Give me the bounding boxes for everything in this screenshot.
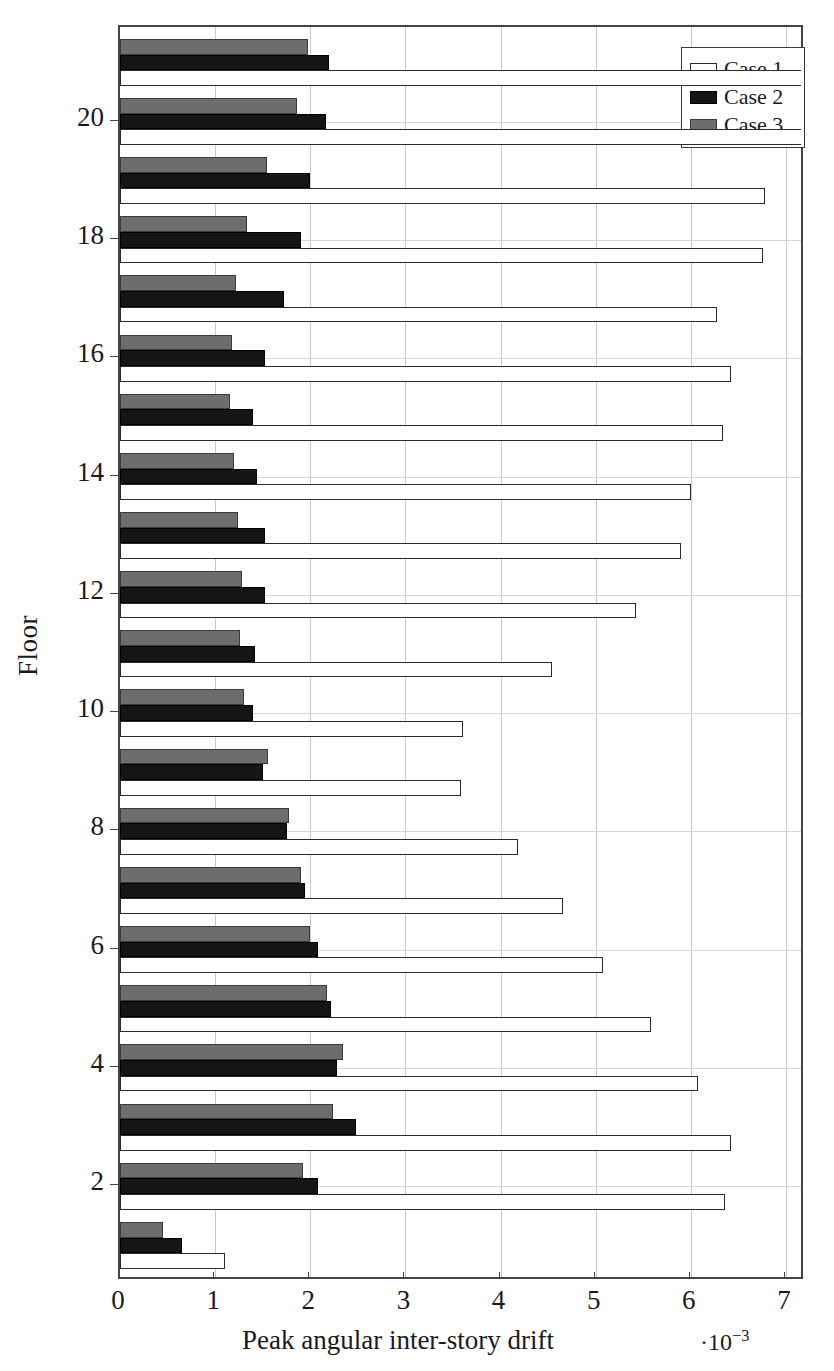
x-tick	[118, 1272, 119, 1279]
bar-case-1-floor-8	[120, 839, 518, 855]
y-tick	[110, 593, 118, 594]
bar-case-3-floor-18	[120, 216, 247, 232]
x-tick	[308, 1272, 309, 1279]
x-tick-label: 3	[373, 1285, 433, 1316]
x-tick-label: 7	[754, 1285, 814, 1316]
plot-area	[118, 25, 803, 1279]
bar-case-3-floor-5	[120, 985, 327, 1001]
y-tick-label: 8	[42, 811, 104, 842]
bar-case-1-floor-13	[120, 543, 681, 559]
bar-case-2-floor-6	[120, 942, 318, 958]
bar-case-2-floor-12	[120, 587, 265, 603]
bar-case-2-floor-4	[120, 1060, 337, 1076]
bar-case-1-floor-11	[120, 662, 552, 678]
bar-case-1-floor-5	[120, 1017, 651, 1033]
bar-case-3-floor-11	[120, 630, 240, 646]
legend-label: Case 2	[724, 84, 783, 110]
x-tick	[689, 1272, 690, 1279]
bar-case-2-floor-2	[120, 1178, 318, 1194]
x-tick	[403, 1272, 404, 1279]
bar-case-3-floor-20	[120, 98, 297, 114]
x-tick-label: 4	[469, 1285, 529, 1316]
bar-case-1-floor-15	[120, 425, 723, 441]
bar-case-2-floor-11	[120, 646, 255, 662]
bar-case-1-floor-7	[120, 898, 563, 914]
y-tick-label: 2	[42, 1166, 104, 1197]
y-tick-label: 20	[42, 102, 104, 133]
bar-case-2-floor-9	[120, 764, 263, 780]
bar-case-1-floor-3	[120, 1135, 731, 1151]
y-tick	[110, 120, 118, 121]
y-tick	[110, 1066, 118, 1067]
bar-case-2-floor-20	[120, 114, 326, 130]
bar-case-2-floor-17	[120, 291, 284, 307]
bar-case-2-floor-8	[120, 823, 287, 839]
y-tick	[110, 948, 118, 949]
bar-case-3-floor-21	[120, 39, 308, 55]
y-tick	[110, 711, 118, 712]
y-tick	[110, 475, 118, 476]
bar-case-2-floor-14	[120, 469, 257, 485]
bar-case-2-floor-7	[120, 883, 305, 899]
x-tick-label: 2	[278, 1285, 338, 1316]
bar-case-1-floor-12	[120, 603, 636, 619]
x-tick-label: 0	[88, 1285, 148, 1316]
bar-case-3-floor-15	[120, 394, 230, 410]
bar-case-2-floor-16	[120, 350, 265, 366]
bar-case-3-floor-13	[120, 512, 238, 528]
legend-item-case-2[interactable]: Case 2	[690, 83, 796, 111]
bar-case-1-floor-17	[120, 307, 717, 323]
x-gridline	[786, 27, 787, 1277]
x-axis-title: Peak angular inter-story drift	[118, 1325, 678, 1356]
y-tick-label: 12	[42, 575, 104, 606]
bar-case-2-floor-21	[120, 55, 329, 71]
bar-case-2-floor-18	[120, 232, 301, 248]
bar-case-1-floor-6	[120, 957, 603, 973]
y-axis-title: Floor	[13, 586, 44, 706]
y-tick-label: 4	[42, 1048, 104, 1079]
x-axis-exponent: ·10−3	[700, 1326, 749, 1356]
bar-case-2-floor-5	[120, 1001, 331, 1017]
y-tick	[110, 238, 118, 239]
bar-case-1-floor-16	[120, 366, 731, 382]
bar-case-2-floor-3	[120, 1119, 356, 1135]
bar-case-1-floor-19	[120, 188, 765, 204]
bar-case-3-floor-1	[120, 1222, 163, 1238]
x-tick-label: 1	[183, 1285, 243, 1316]
bar-case-3-floor-17	[120, 275, 236, 291]
x-tick-label: 5	[564, 1285, 624, 1316]
bar-case-1-floor-9	[120, 780, 461, 796]
bar-case-3-floor-4	[120, 1044, 343, 1060]
bar-case-2-floor-13	[120, 528, 265, 544]
bar-case-3-floor-9	[120, 749, 268, 765]
bar-case-2-floor-15	[120, 409, 253, 425]
y-tick-label: 18	[42, 220, 104, 251]
y-tick	[110, 1184, 118, 1185]
bar-case-1-floor-1	[120, 1253, 225, 1269]
bar-case-1-floor-10	[120, 721, 463, 737]
bar-case-3-floor-16	[120, 335, 232, 351]
x-tick	[499, 1272, 500, 1279]
bar-case-1-floor-4	[120, 1076, 698, 1092]
bar-case-3-floor-8	[120, 808, 289, 824]
bar-case-2-floor-1	[120, 1238, 182, 1254]
legend-swatch-icon	[690, 91, 717, 104]
bar-case-3-floor-3	[120, 1104, 333, 1120]
y-tick-label: 6	[42, 930, 104, 961]
bar-case-3-floor-7	[120, 867, 301, 883]
bar-case-1-floor-2	[120, 1194, 725, 1210]
x-tick	[594, 1272, 595, 1279]
bar-case-3-floor-2	[120, 1163, 303, 1179]
chart-figure: Floor 012345672468101214161820 Peak angu…	[0, 0, 834, 1371]
y-tick-label: 10	[42, 693, 104, 724]
bar-case-3-floor-14	[120, 453, 234, 469]
bar-case-3-floor-12	[120, 571, 242, 587]
bar-case-1-floor-21	[120, 70, 803, 86]
x-tick	[784, 1272, 785, 1279]
y-tick-label: 14	[42, 457, 104, 488]
bar-case-3-floor-19	[120, 157, 267, 173]
bar-case-1-floor-18	[120, 248, 763, 264]
bar-case-1-floor-20	[120, 129, 803, 145]
x-tick-label: 6	[659, 1285, 719, 1316]
y-tick	[110, 356, 118, 357]
